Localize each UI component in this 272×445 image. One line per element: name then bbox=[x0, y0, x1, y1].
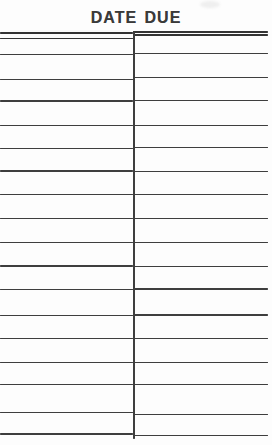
row-line-right bbox=[133, 314, 268, 316]
row-line-left bbox=[0, 218, 133, 220]
row-line-right bbox=[133, 338, 268, 340]
row-line-left bbox=[0, 412, 133, 414]
row-line-left bbox=[0, 170, 133, 172]
row-line-right bbox=[133, 147, 268, 149]
row-line-right bbox=[133, 384, 268, 386]
row-line-right bbox=[133, 125, 268, 127]
date-due-card: DATE DUE bbox=[0, 0, 272, 445]
top-rule-right bbox=[133, 34, 268, 36]
row-line-right bbox=[133, 194, 268, 196]
row-line-left bbox=[0, 362, 133, 364]
row-line-right bbox=[133, 266, 268, 268]
row-line-right bbox=[133, 414, 268, 416]
row-line-right bbox=[133, 218, 268, 220]
row-line-left bbox=[0, 433, 133, 435]
date-due-grid bbox=[0, 0, 272, 445]
row-line-left bbox=[0, 242, 133, 244]
row-line-left bbox=[0, 384, 133, 386]
row-line-right bbox=[133, 77, 268, 79]
row-line-right bbox=[133, 100, 268, 102]
row-line-left bbox=[0, 289, 133, 291]
row-line-right bbox=[133, 362, 268, 364]
row-line-right bbox=[133, 288, 268, 290]
top-rule-left bbox=[0, 38, 133, 40]
column-divider-line bbox=[133, 31, 135, 439]
row-line-right bbox=[133, 242, 268, 244]
row-line-left bbox=[0, 100, 133, 102]
row-line-left bbox=[0, 79, 133, 81]
row-line-left bbox=[0, 315, 133, 317]
top-rule-right bbox=[133, 31, 268, 33]
row-line-left bbox=[0, 194, 133, 196]
row-line-left bbox=[0, 125, 133, 127]
row-line-left bbox=[0, 265, 133, 267]
top-rule-left bbox=[0, 32, 133, 34]
row-line-left bbox=[0, 148, 133, 150]
row-line-right bbox=[133, 171, 268, 173]
row-line-left bbox=[0, 338, 133, 340]
row-line-right bbox=[133, 53, 268, 55]
row-line-right bbox=[133, 435, 268, 437]
row-line-left bbox=[0, 54, 133, 56]
